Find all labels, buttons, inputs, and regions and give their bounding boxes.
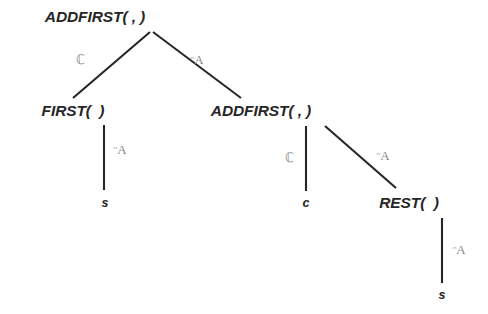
tree-node-c-mid: c [303, 196, 310, 210]
tree-node-root: ADDFIRST( , ) [45, 8, 145, 26]
tree-node-rest: REST( ) [379, 194, 438, 212]
tree-node-s-left: s [102, 196, 109, 210]
tree-edge-label-label-first-s: ᵔA [113, 142, 126, 158]
tree-edge-label-label-addfirst2-c: ℂ [285, 150, 294, 166]
tree-edge-label-label-root-right: ᵔA [190, 52, 203, 68]
tree-node-first: FIRST( ) [42, 102, 105, 120]
tree-edge-layer [0, 0, 488, 314]
tree-node-s-bottom: s [439, 288, 446, 302]
tree-edge-label-label-addfirst2-rest: ᵔA [376, 148, 389, 164]
derivation-tree-figure: ADDFIRST( , )FIRST( )ADDFIRST( , )scREST… [0, 0, 488, 314]
tree-edge-label-label-rest-s: ᵔA [452, 242, 465, 258]
tree-edge-root-first [73, 32, 150, 98]
tree-edge-label-label-root-left: ℂ [76, 52, 85, 68]
tree-node-addfirst2: ADDFIRST( , ) [211, 102, 311, 120]
